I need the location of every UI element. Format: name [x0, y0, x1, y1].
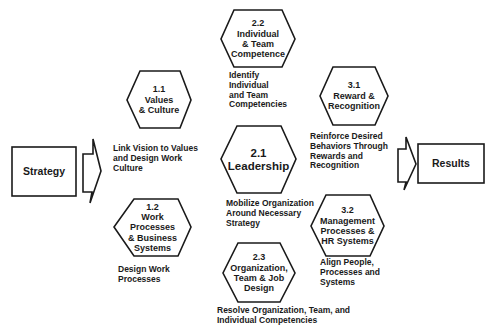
- node-number: 3.2: [341, 205, 354, 215]
- node-2-2-label: 2.2 Individual & Team Competence: [221, 12, 295, 66]
- node-2-2-description: Identify Individual and Team Competencie…: [229, 71, 287, 110]
- node-3-1-label: 3.1 Reward & Recognition: [320, 70, 388, 122]
- node-title: & Business: [128, 233, 177, 243]
- strategy-label: Strategy: [12, 147, 76, 196]
- node-2-1-description: Mobilize Organization Around Necessary S…: [226, 199, 314, 228]
- node-title: HR Systems: [321, 236, 374, 246]
- node-title: Management: [320, 216, 375, 226]
- node-3-2-label: 3.2 Management Processes & HR Systems: [311, 198, 384, 254]
- node-title: Competence: [231, 49, 285, 59]
- output-arrow-icon: [398, 137, 416, 190]
- node-title: Organization,: [230, 263, 288, 273]
- node-1-2-description: Design Work Processes: [118, 265, 170, 285]
- node-title: Systems: [134, 243, 171, 253]
- node-title: Values: [145, 95, 174, 105]
- node-number: 3.1: [348, 80, 361, 90]
- node-1-1-label: 1.1 Values & Culture: [127, 74, 191, 126]
- node-title: Work: [141, 212, 163, 222]
- input-arrow-icon: [83, 139, 101, 203]
- node-title: Design: [244, 283, 274, 293]
- node-number: 2.2: [252, 18, 265, 28]
- node-title: Leadership: [228, 160, 289, 173]
- node-number: 2.3: [253, 252, 266, 262]
- node-1-2-label: 1.2 Work Processes & Business Systems: [114, 200, 191, 255]
- node-number: 1.1: [153, 84, 166, 94]
- node-title: Individual: [237, 29, 279, 39]
- node-number: 1.2: [146, 202, 159, 212]
- node-1-1-description: Link Vision to Values and Design Work Cu…: [113, 144, 198, 173]
- node-3-1-description: Reinforce Desired Behaviors Through Rewa…: [310, 132, 388, 171]
- node-title: & Culture: [139, 105, 180, 115]
- node-title: Recognition: [328, 101, 380, 111]
- node-title: Reward &: [333, 91, 375, 101]
- node-3-2-description: Align People, Processes and Systems: [320, 258, 380, 287]
- node-2-3-label: 2.3 Organization, Team & Job Design: [223, 246, 295, 300]
- node-2-3-description: Resolve Organization, Team, and Individu…: [217, 306, 350, 326]
- node-2-1-label: 2.1 Leadership: [221, 130, 296, 190]
- node-title: Processes &: [320, 226, 374, 236]
- results-label: Results: [418, 144, 484, 183]
- node-number: 2.1: [251, 147, 267, 160]
- node-title: Processes: [130, 222, 175, 232]
- node-title: Team & Job: [234, 273, 284, 283]
- node-title: & Team: [242, 39, 274, 49]
